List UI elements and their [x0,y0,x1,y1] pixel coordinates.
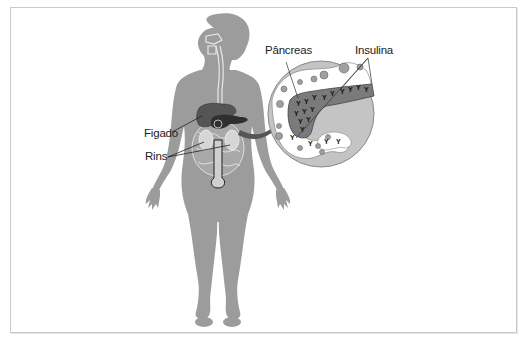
right-hand [276,188,290,210]
label-liver: Figado [144,127,178,139]
svg-text:Y: Y [324,138,329,145]
svg-text:Y: Y [290,134,295,141]
label-insulin: Insulina [355,44,394,56]
svg-text:Y: Y [300,126,305,133]
svg-text:Y: Y [356,84,361,91]
left-kidney [199,130,213,150]
svg-text:Y: Y [308,140,313,147]
svg-text:Y: Y [348,86,353,93]
left-hand [146,188,160,210]
svg-text:Y: Y [336,138,341,145]
svg-text:Y: Y [294,110,299,117]
right-foot [223,317,241,327]
svg-text:Y: Y [312,94,317,101]
svg-text:Y: Y [298,118,303,125]
svg-text:Y: Y [296,100,301,107]
svg-text:Y: Y [304,98,309,105]
svg-text:Y: Y [364,86,369,93]
right-kidney [225,130,239,150]
svg-text:Y: Y [302,108,307,115]
pancreas-detail: YYY YYY YYY YYY YYY YYYY [268,58,374,167]
head [198,13,250,72]
label-kidneys: Rins [145,150,168,162]
label-pancreas: Pâncreas [265,44,312,56]
svg-text:Y: Y [310,106,315,113]
left-foot [195,317,213,327]
anatomy-diagram: YYY YYY YYY YYY YYY YYYY Figado Rins Pân… [0,0,525,342]
svg-text:Y: Y [322,94,327,101]
